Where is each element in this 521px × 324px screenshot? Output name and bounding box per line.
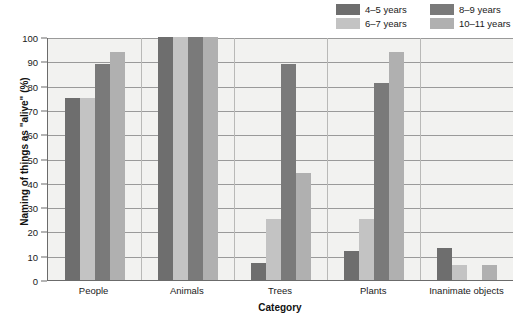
legend-item-8-9-years: 8–9 years xyxy=(430,2,518,16)
bar-group-inanimate-objects xyxy=(420,38,513,280)
legend-swatch-10-11-years xyxy=(430,18,454,29)
category-separator xyxy=(327,38,328,280)
legend-label-8-9-years: 8–9 years xyxy=(459,4,501,15)
x-tick-label-plants: Plants xyxy=(327,285,420,301)
legend-swatch-6-7-years xyxy=(336,18,360,29)
y-axis: Naming of things as "alive" (%) 10090807… xyxy=(0,38,47,281)
bar-people-4-5-years xyxy=(65,98,80,280)
legend-label-10-11-years: 10–11 years xyxy=(459,18,511,29)
y-tick-label-40: 40 xyxy=(27,178,38,189)
x-tick-label-people: People xyxy=(47,285,140,301)
bars-layer xyxy=(48,38,513,280)
legend-item-6-7-years: 6–7 years xyxy=(336,16,424,30)
category-separator xyxy=(234,38,235,280)
bar-trees-10-11-years xyxy=(296,173,311,280)
x-tick-label-trees: Trees xyxy=(233,285,326,301)
legend-swatch-8-9-years xyxy=(430,4,454,15)
y-tick-label-90: 90 xyxy=(27,57,38,68)
bar-trees-6-7-years xyxy=(266,219,281,280)
category-separator xyxy=(141,38,142,280)
bar-inanimate-objects-4-5-years xyxy=(437,248,452,280)
bar-animals-10-11-years xyxy=(203,37,218,280)
y-tick-label-60: 60 xyxy=(27,130,38,141)
bar-group-trees xyxy=(234,38,327,280)
y-tick-label-0: 0 xyxy=(33,276,38,287)
bar-people-8-9-years xyxy=(95,64,110,280)
bar-plants-10-11-years xyxy=(389,52,404,280)
bar-inanimate-objects-10-11-years xyxy=(482,265,497,280)
chart-legend: 4–5 years 8–9 years 6–7 years 10–11 year… xyxy=(336,2,518,30)
bar-people-6-7-years xyxy=(80,98,95,280)
x-axis-title: Category xyxy=(47,302,513,313)
x-tick-label-animals: Animals xyxy=(140,285,233,301)
bar-animals-4-5-years xyxy=(158,37,173,280)
bar-trees-4-5-years xyxy=(251,263,266,280)
bar-plants-8-9-years xyxy=(374,83,389,280)
y-tick-label-20: 20 xyxy=(27,227,38,238)
legend-swatch-4-5-years xyxy=(336,4,360,15)
bar-group-people xyxy=(48,38,141,280)
y-tick-label-30: 30 xyxy=(27,203,38,214)
bar-animals-8-9-years xyxy=(188,37,203,280)
bar-trees-8-9-years xyxy=(281,64,296,280)
plot-area xyxy=(47,38,513,281)
legend-label-6-7-years: 6–7 years xyxy=(365,18,407,29)
y-tick-label-50: 50 xyxy=(27,154,38,165)
bar-animals-6-7-years xyxy=(173,37,188,280)
bar-group-plants xyxy=(327,38,420,280)
legend-item-4-5-years: 4–5 years xyxy=(336,2,424,16)
y-tick-label-80: 80 xyxy=(27,81,38,92)
bar-inanimate-objects-6-7-years xyxy=(452,265,467,280)
y-tick-label-10: 10 xyxy=(27,251,38,262)
bar-group-animals xyxy=(141,38,234,280)
category-separator xyxy=(420,38,421,280)
x-axis-tick-labels: PeopleAnimalsTreesPlantsInanimate object… xyxy=(47,285,513,301)
legend-label-4-5-years: 4–5 years xyxy=(365,4,407,15)
x-tick-label-inanimate-objects: Inanimate objects xyxy=(420,285,513,301)
legend-item-10-11-years: 10–11 years xyxy=(430,16,518,30)
bar-plants-4-5-years xyxy=(344,251,359,280)
y-tick-label-100: 100 xyxy=(22,33,38,44)
y-tick-label-70: 70 xyxy=(27,105,38,116)
bar-people-10-11-years xyxy=(110,52,125,280)
bar-plants-6-7-years xyxy=(359,219,374,280)
